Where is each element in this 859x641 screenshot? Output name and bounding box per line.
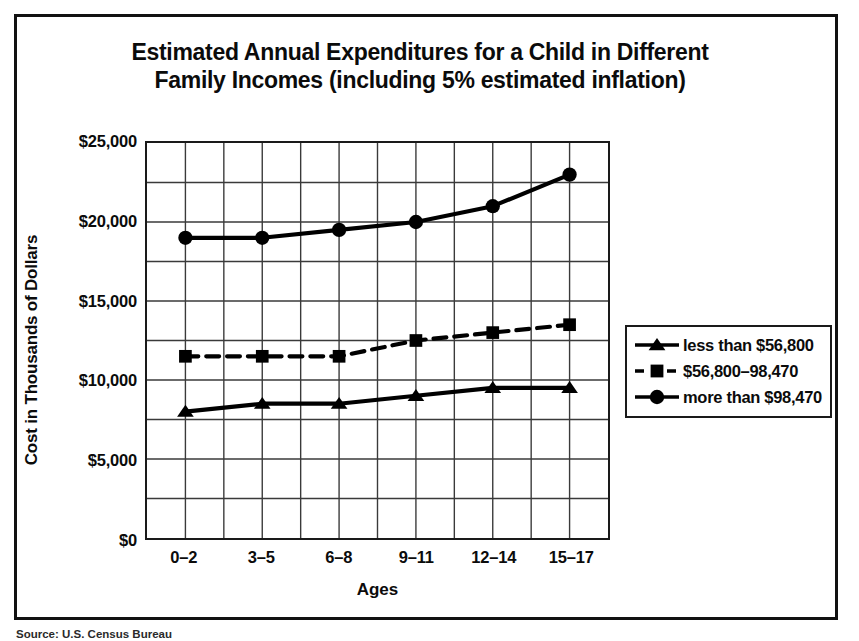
series-marker: [256, 350, 269, 363]
data-series: [185, 325, 569, 357]
x-tick-label: 0–2: [139, 548, 229, 567]
data-series-layer: [147, 143, 608, 538]
source-label: Source:: [16, 628, 59, 640]
series-line: [185, 175, 569, 238]
legend-circle-icon: [634, 386, 680, 408]
series-marker: [409, 215, 423, 229]
series-marker: [179, 350, 192, 363]
chart-title-line-2: Family Incomes (including 5% estimated i…: [40, 66, 800, 94]
chart-legend: less than $56,800$56,800–98,470more than…: [625, 325, 832, 418]
legend-marker: [650, 390, 664, 404]
series-line: [185, 388, 569, 412]
y-tick-label: $25,000: [27, 132, 137, 151]
y-tick-label: $5,000: [27, 451, 137, 470]
x-tick-label: 3–5: [216, 548, 306, 567]
y-axis-tick-labels: $0$5,000$10,000$15,000$20,000$25,000: [15, 141, 137, 540]
legend-item[interactable]: $56,800–98,470: [634, 358, 823, 384]
y-tick-label: $20,000: [27, 211, 137, 230]
chart-title-line-1: Estimated Annual Expenditures for a Chil…: [40, 38, 800, 66]
legend-item[interactable]: less than $56,800: [634, 332, 823, 358]
x-axis-title: Ages: [145, 580, 610, 600]
source-text: U.S. Census Bureau: [62, 628, 172, 640]
figure-root: Estimated Annual Expenditures for a Chil…: [0, 0, 859, 641]
series-marker: [563, 318, 576, 331]
chart-title: Estimated Annual Expenditures for a Chil…: [40, 38, 800, 94]
x-tick-label: 6–8: [294, 548, 384, 567]
y-tick-label: $0: [27, 531, 137, 550]
series-marker: [486, 199, 500, 213]
x-tick-label: 9–11: [371, 548, 461, 567]
series-marker: [332, 223, 346, 237]
legend-label: $56,800–98,470: [683, 362, 798, 381]
x-tick-label: 15–17: [526, 548, 616, 567]
legend-marker: [651, 365, 664, 378]
legend-item[interactable]: more than $98,470: [634, 384, 823, 410]
source-note: Source: U.S. Census Bureau: [16, 628, 172, 640]
legend-triangle-icon: [634, 334, 680, 356]
series-marker: [410, 334, 423, 347]
series-marker: [178, 231, 192, 245]
series-line: [185, 325, 569, 357]
legend-label: more than $98,470: [683, 388, 822, 407]
data-series: [185, 388, 569, 412]
y-tick-label: $15,000: [27, 291, 137, 310]
x-axis-tick-labels: 0–23–56–89–1112–1415–17: [145, 548, 610, 574]
legend-label: less than $56,800: [683, 336, 814, 355]
series-marker: [255, 231, 269, 245]
series-marker: [486, 326, 499, 339]
legend-square-icon: [634, 360, 680, 382]
y-tick-label: $10,000: [27, 371, 137, 390]
series-marker: [562, 167, 576, 181]
series-marker: [333, 350, 346, 363]
plot-area: [145, 141, 610, 540]
data-series: [185, 175, 569, 238]
x-tick-label: 12–14: [449, 548, 539, 567]
